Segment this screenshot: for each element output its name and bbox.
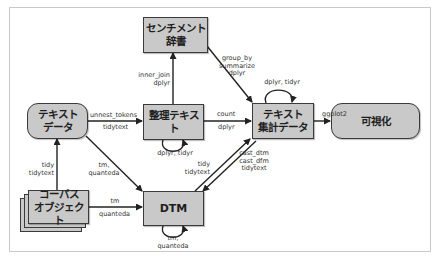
node-dtm: DTM (143, 191, 204, 226)
node-label: センチメント 辞書 (146, 22, 206, 48)
label-quanteda: quanteda (99, 211, 130, 219)
label-dtm-loop: tm, quanteda (151, 235, 195, 250)
label-dplyr: dplyr (218, 124, 235, 132)
label-count: count (217, 111, 235, 119)
label-cast-dtm: cast_dtm cast_dfm tidytext (237, 150, 271, 173)
label-corpus-tidy: tidy tidytext (14, 162, 54, 177)
label-summary-loop: dplyr, tidyr (262, 79, 302, 87)
node-tidy-text: 整理テキスト (143, 104, 204, 140)
node-sentiment-dictionary: センチメント 辞書 (143, 17, 208, 53)
label-unnest-tokens: unnest_tokens (90, 112, 137, 120)
label-tidy-loop: dplyr, tidyr (155, 150, 195, 158)
node-label: 可視化 (361, 115, 391, 128)
node-label: テキスト データ (38, 108, 78, 134)
label-tm-quanteda: tm, quanteda (88, 162, 120, 177)
loop-summary (265, 90, 292, 103)
label-dtm-tidy: tidy tidytext (170, 161, 210, 176)
node-corpus-object: コーパス オブジェクト (28, 190, 89, 224)
label-ggplot2: ggplot2 (322, 111, 347, 119)
label-tm: tm (103, 198, 127, 206)
node-label: コーパス オブジェクト (29, 188, 88, 227)
node-summarized-text-data: テキスト 集計データ (252, 103, 314, 139)
label-tidytext-1: tidytext (103, 124, 128, 132)
label-inner-join: inner_join dplyr (130, 72, 170, 87)
node-visualization: 可視化 (331, 103, 420, 139)
node-label: DTM (160, 202, 188, 215)
node-label: 整理テキスト (144, 109, 203, 135)
node-text-data: テキスト データ (27, 103, 88, 139)
node-label: テキスト 集計データ (258, 108, 308, 134)
label-group-by: group_by summarize dplyr (217, 55, 257, 78)
